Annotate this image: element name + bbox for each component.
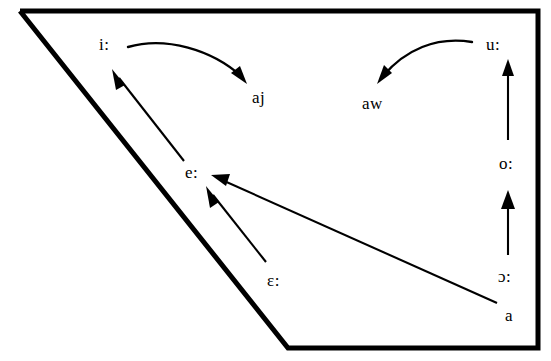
arrow-epsilon-to-e bbox=[206, 186, 266, 262]
arrow-e-to-i-head bbox=[112, 69, 125, 90]
vowel-label-a-short: a bbox=[505, 307, 513, 324]
arrow-u-to-aw bbox=[377, 41, 472, 84]
vowel-diagram-canvas bbox=[0, 0, 551, 361]
arrow-u-to-aw-line bbox=[383, 41, 472, 76]
arrow-o-to-u bbox=[502, 59, 514, 140]
arrow-epsilon-to-e-head bbox=[206, 186, 219, 208]
vowel-label-open-o-long: ɔ: bbox=[498, 268, 511, 285]
vowel-label-i-long: i: bbox=[99, 36, 109, 53]
vowel-label-aw: aw bbox=[362, 95, 383, 112]
arrow-i-to-aj-line bbox=[128, 43, 241, 76]
arrow-a-to-e bbox=[211, 174, 497, 303]
vowel-label-aj: aj bbox=[252, 89, 265, 106]
arrow-e-to-i bbox=[112, 69, 184, 161]
vowel-label-u-long: u: bbox=[486, 36, 500, 53]
vowel-label-epsilon-long: ɛ: bbox=[267, 272, 280, 289]
arrow-open-o-to-o bbox=[501, 190, 515, 255]
vowel-label-e-long: e: bbox=[185, 164, 198, 181]
arrow-o-to-u-head bbox=[502, 59, 514, 76]
arrow-i-to-aj bbox=[128, 43, 247, 84]
arrow-open-o-to-o-head bbox=[501, 190, 515, 209]
arrow-epsilon-to-e-line bbox=[213, 195, 266, 262]
arrow-a-to-e-line bbox=[222, 180, 497, 303]
vowel-shift-diagram: i: aj aw u: o: e: ɔ: ɛ: a bbox=[0, 0, 551, 361]
arrow-a-to-e-head bbox=[211, 174, 230, 186]
vowel-trapezoid-outline bbox=[20, 11, 538, 348]
vowel-label-o-long: o: bbox=[499, 155, 513, 172]
